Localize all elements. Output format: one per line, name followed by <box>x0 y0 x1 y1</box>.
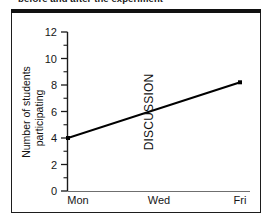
y-tick-label-12: 12 <box>45 26 57 38</box>
y-axis-title-line2: participating <box>33 90 45 147</box>
y-tick-label-4: 4 <box>51 132 57 144</box>
x-tick-label-fri: Fri <box>234 194 247 206</box>
y-tick-label-0: 0 <box>51 185 57 197</box>
y-axis-title-line1: Number of students <box>20 66 32 158</box>
discussion-annotation: DISCUSSION <box>142 74 156 151</box>
chart-svg: 12 10 8 6 4 2 0 Mon Wed Fri Number of st… <box>0 0 273 224</box>
x-tick-label-mon: Mon <box>67 194 88 206</box>
x-tick-label-wed: Wed <box>148 194 170 206</box>
y-tick-label-2: 2 <box>51 159 57 171</box>
data-point-marker-fri <box>238 80 242 84</box>
line-chart: 12 10 8 6 4 2 0 Mon Wed Fri Number of st… <box>0 0 273 224</box>
y-tick-label-10: 10 <box>45 53 57 65</box>
y-axis-major-ticks <box>61 32 68 191</box>
data-point-marker-mon <box>66 136 70 140</box>
y-tick-label-6: 6 <box>51 106 57 118</box>
y-tick-label-8: 8 <box>51 79 57 91</box>
